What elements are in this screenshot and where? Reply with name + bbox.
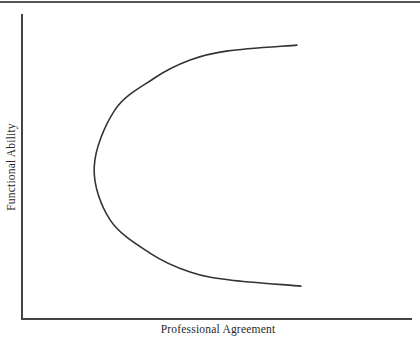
data-curve [94, 45, 301, 286]
plot-area [0, 0, 420, 342]
x-axis-label: Professional Agreement [161, 323, 276, 335]
y-axis-label: Functional Ability [5, 123, 17, 211]
